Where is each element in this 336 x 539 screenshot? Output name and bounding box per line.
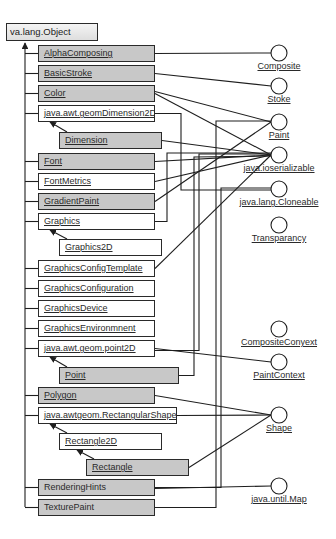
class-box-object[interactable]: va.lang.Object xyxy=(6,23,98,41)
class-label: GraphicsConfiguration xyxy=(44,283,134,293)
interface-label-shape[interactable]: Shape xyxy=(266,423,292,433)
class-label: java.awt.geom.point2D xyxy=(44,343,136,353)
class-box-genv[interactable]: GraphicsEnvironmnent xyxy=(38,320,155,337)
class-label: Point xyxy=(65,370,86,380)
interface-label-transparancy[interactable]: Transparancy xyxy=(252,233,307,243)
interface-lollipop-serializable[interactable] xyxy=(271,147,287,163)
interface-label-stoke[interactable]: Stoke xyxy=(267,94,290,104)
interface-lollipop-stoke[interactable] xyxy=(271,78,287,94)
class-label: Rectangle xyxy=(92,462,133,472)
interface-lollipop-compositecontext[interactable] xyxy=(271,321,287,337)
class-box-point[interactable]: Point xyxy=(59,367,179,384)
class-box-polygon[interactable]: Polygon xyxy=(38,387,155,404)
class-box-rectangle[interactable]: Rectangle xyxy=(86,459,189,476)
interface-lollipop-paint[interactable] xyxy=(271,114,287,130)
class-label: va.lang.Object xyxy=(10,26,71,37)
class-label: Font xyxy=(44,156,62,166)
class-box-renderinghints[interactable]: RenderingHints xyxy=(38,479,155,496)
class-box-point2d[interactable]: java.awt.geom.point2D xyxy=(38,340,155,357)
class-label: java.awt.geomDimension2D xyxy=(44,108,155,118)
class-label: GraphicsEnvironmnent xyxy=(44,323,136,333)
class-label: FontMetrics xyxy=(44,176,91,186)
class-label: BasicStroke xyxy=(44,68,92,78)
class-box-graphics2d[interactable]: Graphics2D xyxy=(59,239,162,256)
class-box-rect2d[interactable]: Rectangle2D xyxy=(59,433,162,450)
class-box-alphacomposing[interactable]: AlphaComposing xyxy=(38,45,155,62)
interface-lollipop-map[interactable] xyxy=(271,478,287,494)
class-box-basicstroke[interactable]: BasicStroke xyxy=(38,65,155,82)
interface-label-paint[interactable]: Paint xyxy=(269,130,290,140)
class-label: AlphaComposing xyxy=(44,48,113,58)
class-label: TexturePaint xyxy=(44,502,94,512)
class-label: Dimension xyxy=(65,135,108,145)
interface-lollipop-cloneable[interactable] xyxy=(271,181,287,197)
interface-label-map[interactable]: java.until.Map xyxy=(251,494,307,504)
class-box-dimension[interactable]: Dimension xyxy=(59,132,162,149)
class-box-gdevice[interactable]: GraphicsDevice xyxy=(38,300,155,317)
interface-lollipop-shape[interactable] xyxy=(271,407,287,423)
class-label: Rectangle2D xyxy=(65,436,117,446)
class-label: Graphics xyxy=(44,216,80,226)
class-label: GraphicsConfigTemplate xyxy=(44,263,143,273)
class-box-color[interactable]: Color xyxy=(38,85,155,102)
class-label: RenderingHints xyxy=(44,482,106,492)
class-label: GradientPaint xyxy=(44,196,99,206)
interface-label-composite[interactable]: Composite xyxy=(257,61,300,71)
class-box-gconfig[interactable]: GraphicsConfiguration xyxy=(38,280,155,297)
class-box-texturepaint[interactable]: TexturePaint xyxy=(38,499,155,516)
interface-lollipop-transparancy[interactable] xyxy=(271,217,287,233)
class-box-fontmetrics[interactable]: FontMetrics xyxy=(38,173,155,190)
class-box-font[interactable]: Font xyxy=(38,153,155,170)
interface-label-paintcontext[interactable]: PaintContext xyxy=(253,370,305,380)
class-label: GraphicsDevice xyxy=(44,303,108,313)
class-label: Polygon xyxy=(44,390,77,400)
interface-lollipop-paintcontext[interactable] xyxy=(271,354,287,370)
class-box-rectshape[interactable]: java.awtgeom.RectangularShape xyxy=(38,407,177,424)
interface-label-compositecontext[interactable]: CompositeConyext xyxy=(241,337,317,347)
interface-label-cloneable[interactable]: java.lang.Cloneable xyxy=(239,197,318,207)
interface-lollipop-composite[interactable] xyxy=(271,45,287,61)
interface-label-serializable[interactable]: java.ioserializable xyxy=(243,163,314,173)
class-box-gct[interactable]: GraphicsConfigTemplate xyxy=(38,260,155,277)
class-box-gradientpaint[interactable]: GradientPaint xyxy=(38,193,155,210)
class-box-graphics[interactable]: Graphics xyxy=(38,213,155,230)
class-label: java.awtgeom.RectangularShape xyxy=(44,410,177,420)
class-label: Color xyxy=(44,88,66,98)
class-box-dimension2d[interactable]: java.awt.geomDimension2D xyxy=(38,105,155,122)
class-label: Graphics2D xyxy=(65,242,113,252)
